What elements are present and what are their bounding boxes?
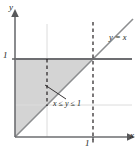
figure-canvas xyxy=(0,0,140,152)
region-inequality-label: x ≤ y ≤ 1 xyxy=(53,100,81,108)
y-axis-tick-label-1: 1 xyxy=(3,51,8,60)
line-equation-label: y = x xyxy=(109,33,127,42)
x-axis-tick-label-1: 1 xyxy=(85,139,90,148)
x-axis-label: x xyxy=(130,131,134,140)
math-figure-region-of-integration: y x 1 1 y = x x ≤ y ≤ 1 xyxy=(0,0,140,152)
y-axis-label: y xyxy=(9,3,13,12)
